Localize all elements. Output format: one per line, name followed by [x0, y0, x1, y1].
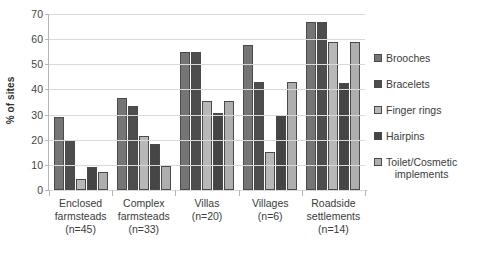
x-axis-category-label: Roadsidesettlements(n=14) [302, 197, 365, 236]
legend-item[interactable]: Bracelets [374, 78, 491, 90]
bar-group [175, 14, 238, 190]
bar-group [112, 14, 175, 190]
legend-swatch-icon [374, 106, 382, 114]
y-axis-tick-mark [45, 14, 49, 15]
legend-item[interactable]: Hairpins [374, 130, 491, 142]
grid-line [49, 140, 365, 141]
x-axis-separator [365, 190, 366, 196]
x-axis-labels: Enclosedfarmsteads(n=45)Complexfarmstead… [49, 197, 365, 236]
bar-group [239, 14, 302, 190]
y-axis-tick-mark [45, 115, 49, 116]
legend-swatch-icon [374, 158, 382, 166]
y-axis-tick-mark [45, 140, 49, 141]
legend-item[interactable]: Toilet/Cosmeticimplements [374, 156, 491, 180]
grid-line [49, 14, 365, 15]
grid-line [49, 64, 365, 65]
bar [150, 144, 160, 191]
x-axis-category-label-line: Enclosed [50, 197, 111, 210]
legend-item[interactable]: Brooches [374, 52, 491, 64]
bar [139, 136, 149, 190]
legend-label-line2: implements [386, 168, 457, 180]
x-axis-separator [175, 190, 176, 196]
x-axis-category-label-line: farmsteads [50, 210, 111, 223]
y-axis-tick-mark [45, 64, 49, 65]
x-axis-separators [49, 190, 365, 196]
grid-line [49, 89, 365, 90]
y-axis-tick-mark [45, 89, 49, 90]
bar [265, 152, 275, 190]
bar-chart: % of sites 010203040506070 Enclosedfarms… [0, 0, 491, 260]
x-axis-category-label-line: Villas [176, 197, 237, 210]
bar [213, 113, 223, 190]
bar [117, 98, 127, 190]
x-axis-category-label: Enclosedfarmsteads(n=45) [49, 197, 112, 236]
x-axis-separator [49, 190, 50, 196]
bar [287, 82, 297, 190]
legend-label: Toilet/Cosmeticimplements [386, 156, 457, 180]
bar [98, 172, 108, 190]
x-axis-category-label-line: (n=6) [240, 210, 301, 223]
x-axis-category-label: Villas(n=20) [175, 197, 238, 236]
y-axis-tick-label: 30 [31, 109, 43, 121]
y-axis-tick-label: 20 [31, 134, 43, 146]
bar [54, 117, 64, 190]
bar [180, 52, 190, 190]
bar [128, 106, 138, 190]
grid-line [49, 115, 365, 116]
y-axis-tick-mark [45, 39, 49, 40]
legend-label: Bracelets [386, 78, 430, 90]
x-axis-separator [239, 190, 240, 196]
x-axis-category-label-line: Villages [240, 197, 301, 210]
bar [243, 45, 253, 190]
y-axis-title-text: % of sites [6, 76, 17, 124]
y-axis-tick-label: 60 [31, 33, 43, 45]
bar [339, 83, 349, 190]
y-axis-tick-label: 10 [31, 159, 43, 171]
bar-groups [49, 14, 365, 190]
legend-label: Hairpins [386, 130, 425, 142]
x-axis-category-label-line: Complex [113, 197, 174, 210]
bar [276, 116, 286, 190]
x-axis-category-label-line: (n=14) [303, 223, 364, 236]
x-axis-separator [302, 190, 303, 196]
x-axis-category-label-line: (n=20) [176, 210, 237, 223]
y-axis-tick-label: 50 [31, 58, 43, 70]
y-axis-tick-label: 70 [31, 8, 43, 20]
bar [87, 167, 97, 190]
x-axis-separator [112, 190, 113, 196]
x-axis-category-label-line: farmsteads [113, 210, 174, 223]
bar [76, 179, 86, 190]
legend-swatch-icon [374, 80, 382, 88]
x-axis-category-label: Complexfarmsteads(n=33) [112, 197, 175, 236]
grid-line [49, 165, 365, 166]
legend-swatch-icon [374, 54, 382, 62]
x-axis-category-label: Villages(n=6) [239, 197, 302, 236]
y-axis-tick-label: 40 [31, 83, 43, 95]
legend: BroochesBraceletsFinger ringsHairpinsToi… [374, 52, 491, 194]
legend-label: Brooches [386, 52, 430, 64]
x-axis-category-label-line: Roadside [303, 197, 364, 210]
bar-group [49, 14, 112, 190]
x-axis-category-label-line: settlements [303, 210, 364, 223]
legend-swatch-icon [374, 132, 382, 140]
legend-label: Finger rings [386, 104, 441, 116]
y-axis-tick-mark [45, 165, 49, 166]
x-axis-category-label-line: (n=33) [113, 223, 174, 236]
bar [254, 82, 264, 190]
bar [161, 166, 171, 190]
grid-line [49, 39, 365, 40]
plot-area [49, 14, 365, 190]
y-axis-title: % of sites [0, 0, 22, 200]
y-axis-tick-labels: 010203040506070 [22, 14, 46, 190]
y-axis-tick-label: 0 [37, 184, 43, 196]
x-axis-category-label-line: (n=45) [50, 223, 111, 236]
bar-group [302, 14, 365, 190]
bar [191, 52, 201, 190]
legend-item[interactable]: Finger rings [374, 104, 491, 116]
